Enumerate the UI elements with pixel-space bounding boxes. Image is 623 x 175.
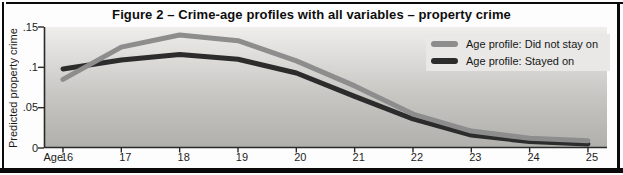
legend: Age profile: Did not stay on Age profile… [426, 34, 610, 71]
legend-line-swatch-icon [431, 58, 458, 64]
x-tick-label: 20 [283, 151, 317, 163]
y-tick-label: .1 [0, 61, 38, 73]
x-tick-label: 22 [400, 151, 434, 163]
x-tick-label: 18 [167, 151, 201, 163]
legend-line-swatch-icon [431, 41, 458, 47]
legend-label: Age profile: Stayed on [466, 55, 574, 67]
y-tick-label: .15 [0, 21, 38, 33]
legend-item: Age profile: Did not stay on [431, 37, 610, 52]
legend-label: Age profile: Did not stay on [466, 38, 598, 50]
chart-canvas [0, 0, 623, 175]
legend-item: Age profile: Stayed on [431, 54, 610, 69]
x-tick-label: 19 [225, 151, 259, 163]
x-tick-label: 17 [108, 151, 142, 163]
figure-frame: Figure 2 – Crime-age profiles with all v… [0, 0, 623, 175]
y-axis-label: Predicted property crime [6, 27, 20, 149]
x-tick-label: 24 [517, 151, 551, 163]
x-tick-label: 21 [342, 151, 376, 163]
y-tick-label: .05 [0, 101, 38, 113]
x-tick-label: 16 [50, 151, 84, 163]
x-tick-label: 23 [458, 151, 492, 163]
x-tick-label: 25 [575, 151, 609, 163]
